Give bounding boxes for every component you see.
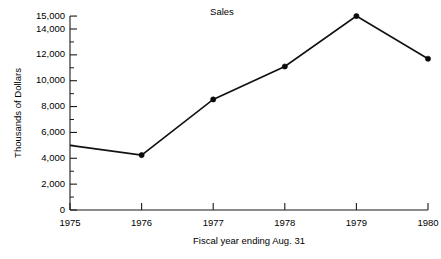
data-point-1980 [425, 56, 430, 61]
y-tick-label-8000: 8,000 [41, 100, 65, 111]
y-tick-label-2000: 2,000 [41, 178, 65, 189]
x-axis-major-ticks [70, 203, 428, 210]
sales-line-chart: 02,0004,0006,0008,00010,00012,00014,0001… [0, 0, 441, 259]
x-tick-label-1976: 1976 [131, 217, 152, 228]
y-tick-label-12000: 12,000 [36, 48, 65, 59]
y-axis-tick-labels: 02,0004,0006,0008,00010,00012,00014,0001… [36, 10, 65, 215]
x-tick-label-1979: 1979 [346, 217, 367, 228]
chart-title: Sales [210, 6, 234, 17]
chart-canvas: 02,0004,0006,0008,00010,00012,00014,0001… [0, 0, 441, 259]
y-axis-title: Thousands of Dollars [12, 68, 23, 158]
x-tick-label-1980: 1980 [417, 217, 438, 228]
y-axis-minor-ticks [70, 42, 74, 197]
y-tick-label-6000: 6,000 [41, 126, 65, 137]
y-tick-label-4000: 4,000 [41, 152, 65, 163]
x-tick-label-1977: 1977 [203, 217, 224, 228]
x-tick-label-1978: 1978 [274, 217, 295, 228]
x-tick-label-1975: 1975 [59, 217, 80, 228]
data-point-1976 [139, 152, 144, 157]
y-tick-label-15000: 15,000 [36, 10, 65, 21]
y-tick-label-10000: 10,000 [36, 74, 65, 85]
data-point-1978 [282, 64, 287, 69]
y-tick-label-0: 0 [60, 204, 65, 215]
data-point-1979 [354, 13, 359, 18]
y-axis-major-ticks [70, 16, 77, 210]
x-axis-title: Fiscal year ending Aug. 31 [193, 235, 305, 246]
x-axis-tick-labels: 197519761977197819791980 [59, 217, 438, 228]
sales-series-line [70, 16, 428, 155]
data-point-1977 [211, 97, 216, 102]
y-tick-label-14000: 14,000 [36, 23, 65, 34]
